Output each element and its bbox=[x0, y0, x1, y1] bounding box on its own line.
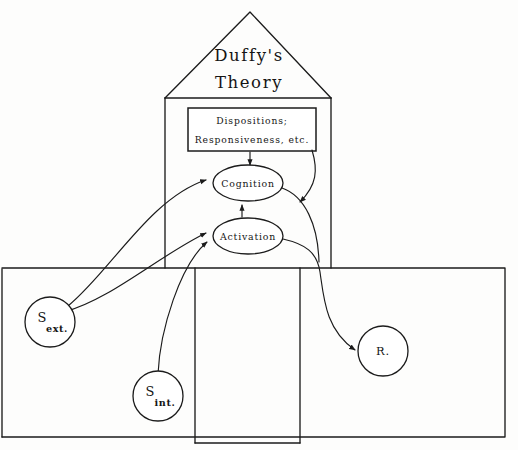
node-activation-label: Activation bbox=[219, 231, 276, 242]
edge-cognition-outflow bbox=[282, 188, 319, 262]
node-s-int-symbol: S bbox=[145, 384, 154, 399]
page-title: Duffy's Theory bbox=[214, 46, 284, 92]
dispositions-box: Dispositions; Responsiveness, etc. bbox=[188, 108, 316, 151]
diagram-canvas: Duffy's Theory Dispositions; Responsiven… bbox=[0, 0, 518, 450]
edge-dispositions-to-activation bbox=[300, 150, 315, 202]
node-s-int[interactable]: S int. bbox=[133, 371, 183, 421]
node-s-ext[interactable]: S ext. bbox=[25, 297, 75, 347]
dispositions-line-2: Responsiveness, etc. bbox=[195, 134, 310, 145]
node-response[interactable]: R. bbox=[358, 326, 408, 376]
title-line-1: Duffy's bbox=[214, 46, 284, 65]
node-cognition-label: Cognition bbox=[221, 178, 275, 189]
edge-sext-to-cognition bbox=[68, 180, 206, 306]
base-band-dividers bbox=[195, 268, 300, 443]
node-activation[interactable]: Activation bbox=[213, 218, 283, 254]
title-line-2: Theory bbox=[215, 73, 283, 92]
node-response-label: R. bbox=[376, 344, 390, 358]
node-s-ext-subscript: ext. bbox=[46, 323, 68, 334]
node-cognition[interactable]: Cognition bbox=[213, 165, 283, 201]
diagram-root: Duffy's Theory Dispositions; Responsiven… bbox=[0, 0, 518, 450]
base-band bbox=[2, 268, 505, 437]
dispositions-line-1: Dispositions; bbox=[216, 115, 288, 126]
node-s-int-subscript: int. bbox=[155, 397, 176, 408]
